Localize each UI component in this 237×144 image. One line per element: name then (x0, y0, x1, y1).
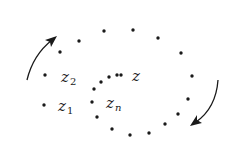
point-dot (186, 97, 189, 100)
point-dot (156, 36, 159, 39)
left-arrow-icon (27, 36, 57, 80)
label-zn: z n (105, 94, 121, 113)
label-z1: z 1 (57, 97, 73, 116)
point-dot (77, 39, 80, 42)
point-dot (90, 100, 93, 103)
point-dot (190, 74, 193, 77)
point-dot (119, 73, 122, 76)
point-dot (92, 87, 95, 90)
diagram-svg: z 2 z 1 z z n (0, 0, 237, 144)
svg-text:z: z (105, 94, 114, 112)
point-dot (131, 28, 134, 31)
point-dot (115, 73, 118, 76)
point-dot (147, 131, 150, 134)
svg-text:1: 1 (67, 105, 73, 116)
point-dot (99, 80, 102, 83)
point-dot (58, 50, 61, 53)
spiral-sequence-diagram: z 2 z 1 z z n (0, 0, 237, 144)
point-dot (110, 127, 113, 130)
point-dot (176, 112, 179, 115)
svg-text:2: 2 (70, 76, 76, 87)
point-dot (95, 115, 98, 118)
point-dot (102, 29, 105, 32)
label-z: z (131, 67, 140, 85)
svg-text:z: z (60, 68, 69, 86)
point-dot (179, 51, 182, 54)
point-dot (163, 122, 166, 125)
point-dot (43, 73, 46, 76)
right-arrow-icon (190, 80, 218, 126)
svg-text:z: z (131, 67, 140, 85)
point-dot (107, 75, 110, 78)
point-dot (42, 103, 45, 106)
label-z2: z 2 (60, 68, 76, 87)
point-dot (128, 133, 131, 136)
svg-text:n: n (115, 102, 121, 113)
svg-text:z: z (57, 97, 66, 115)
